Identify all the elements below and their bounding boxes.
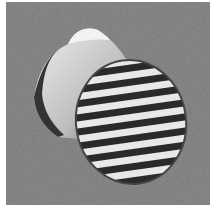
photo-canvas <box>6 2 210 205</box>
seashell-photo <box>6 2 210 205</box>
